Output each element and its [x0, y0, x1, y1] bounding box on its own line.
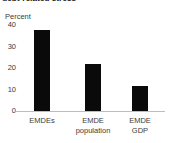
- bar-emde-population: [85, 64, 101, 111]
- bar-emdes: [34, 30, 50, 111]
- x-tick-label-emde-gdp-line1: EMDE: [117, 116, 163, 126]
- x-tick-label-emde-gdp: EMDE GDP: [117, 116, 163, 135]
- y-tick-label-40: 40: [2, 21, 16, 29]
- plot-area: 40 30 20 10 0 EMDEs EMDE population EMDE…: [0, 0, 169, 143]
- y-tick-label-0: 0: [2, 107, 16, 115]
- y-tick-label-30: 30: [2, 43, 16, 51]
- x-tick-label-emde-population-line2: population: [67, 126, 119, 136]
- chart-figure: debt-related stress Percent 40 30 20 10 …: [0, 0, 169, 143]
- x-tick-label-emde-population-line1: EMDE: [67, 116, 119, 126]
- y-tick-label-20: 20: [2, 64, 16, 72]
- x-tick-label-emde-gdp-line2: GDP: [117, 126, 163, 136]
- x-tick-label-emdes: EMDEs: [17, 116, 67, 126]
- x-tick-label-emde-population: EMDE population: [67, 116, 119, 135]
- bar-emde-gdp: [132, 86, 148, 111]
- y-tick-label-10: 10: [2, 86, 16, 94]
- x-axis-baseline: [16, 111, 165, 112]
